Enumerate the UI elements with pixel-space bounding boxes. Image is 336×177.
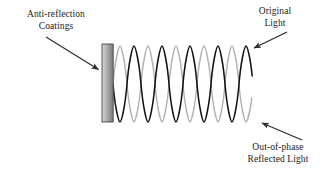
- reflected-label-line2: Reflected Light: [222, 154, 334, 166]
- reflected-label-line1: Out-of-phase: [222, 142, 334, 154]
- coatings-arrow: [46, 37, 99, 70]
- coatings-label-line1: Anti-reflection: [8, 9, 104, 21]
- reflected-light-wave: [113, 46, 252, 122]
- coating-rectangle: [102, 44, 113, 122]
- reflected-light-arrow: [262, 123, 302, 140]
- original-light-label: Original Light: [238, 6, 312, 29]
- original-label-line2: Light: [238, 18, 312, 30]
- coatings-label-line2: Coatings: [8, 21, 104, 33]
- anti-reflection-coatings-label: Anti-reflection Coatings: [8, 9, 104, 32]
- original-label-line1: Original: [238, 6, 312, 18]
- out-of-phase-reflected-light-label: Out-of-phase Reflected Light: [222, 142, 334, 165]
- diagram-canvas: Anti-reflection Coatings Original Light …: [0, 0, 336, 177]
- original-light-arrow: [254, 32, 287, 48]
